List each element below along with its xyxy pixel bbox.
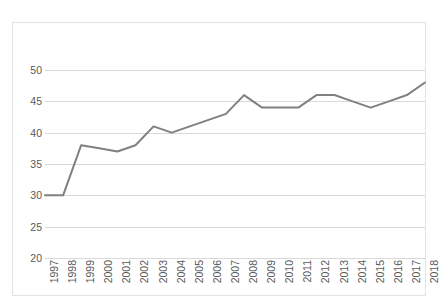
y-tick-label: 45: [30, 96, 42, 107]
line-chart-figure: 20253035404550 1997199819992000200120022…: [0, 0, 439, 308]
gridline: [45, 258, 425, 259]
x-tick-label: 2007: [230, 260, 241, 283]
x-tick-label: 2008: [248, 260, 259, 283]
x-tick-label: 2001: [121, 260, 132, 283]
y-axis: 20253035404550: [18, 70, 42, 258]
y-tick-label: 35: [30, 159, 42, 170]
x-tick-label: 2009: [266, 260, 277, 283]
x-tick-label: 2004: [176, 260, 187, 283]
x-tick-label: 2014: [357, 260, 368, 283]
y-tick-label: 30: [30, 190, 42, 201]
x-tick-label: 2006: [212, 260, 223, 283]
x-tick-label: 1997: [49, 260, 60, 283]
x-tick-label: 1998: [67, 260, 78, 283]
series-line: [45, 70, 425, 258]
y-tick-label: 40: [30, 127, 42, 138]
x-tick-label: 2012: [320, 260, 331, 283]
x-tick-label: 2005: [194, 260, 205, 283]
plot-area: [45, 70, 425, 258]
x-tick-label: 1999: [85, 260, 96, 283]
x-tick-label: 2013: [339, 260, 350, 283]
x-tick-label: 2010: [284, 260, 295, 283]
x-tick-label: 2016: [393, 260, 404, 283]
x-tick-label: 2017: [411, 260, 422, 283]
x-axis: 1997199819992000200120022003200420052006…: [45, 260, 425, 296]
x-tick-label: 2015: [375, 260, 386, 283]
x-tick-label: 2003: [158, 260, 169, 283]
y-tick-label: 25: [30, 221, 42, 232]
y-tick-label: 20: [30, 253, 42, 264]
series-polyline: [45, 83, 425, 196]
x-tick-label: 2002: [139, 260, 150, 283]
x-tick-label: 2018: [429, 260, 439, 283]
x-tick-label: 2011: [302, 260, 313, 283]
x-tick-label: 2000: [103, 260, 114, 283]
y-tick-label: 50: [30, 65, 42, 76]
